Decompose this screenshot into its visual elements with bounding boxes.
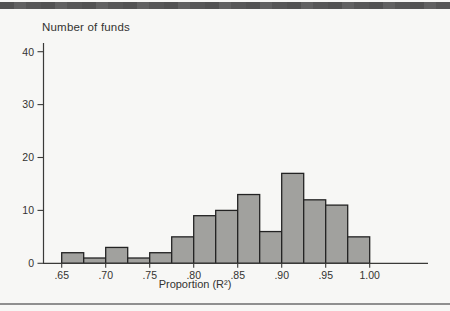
y-tick-label: 10 — [22, 204, 34, 216]
x-tick-label: .85 — [230, 269, 245, 281]
histogram-bars — [62, 173, 370, 263]
histogram-bar — [216, 210, 238, 263]
chart-title: Number of funds — [42, 21, 130, 33]
scanned-page: Number of funds 010203040 .65.70.75.80.8… — [0, 0, 450, 311]
histogram-bar — [326, 205, 348, 263]
x-tick-label: .90 — [274, 269, 289, 281]
histogram-bar — [172, 237, 194, 263]
y-tick-label: 20 — [22, 151, 34, 163]
histogram-bar — [348, 237, 370, 263]
x-tick-label: 1.00 — [359, 269, 380, 281]
histogram-bar — [304, 200, 326, 263]
histogram-bar — [260, 232, 282, 264]
x-tick-label: .75 — [142, 269, 157, 281]
histogram-bar — [84, 258, 106, 263]
x-tick-label: .95 — [318, 269, 333, 281]
x-tick-label: .65 — [54, 269, 69, 281]
x-tick-label: .70 — [98, 269, 113, 281]
histogram-bar — [62, 253, 84, 264]
y-tick-label: 40 — [22, 46, 34, 58]
histogram-bar — [150, 253, 172, 264]
y-axis-ticks: 010203040 — [22, 46, 43, 270]
y-tick-label: 30 — [22, 98, 34, 110]
histogram-chart: Number of funds 010203040 .65.70.75.80.8… — [0, 0, 450, 311]
histogram-bar — [106, 247, 128, 263]
histogram-bar — [128, 258, 150, 263]
histogram-bar — [282, 173, 304, 263]
histogram-bar — [194, 216, 216, 264]
histogram-bar — [238, 195, 260, 264]
x-axis-label: Proportion (R²) — [159, 278, 232, 290]
y-tick-label: 0 — [28, 257, 34, 269]
page-bottom-rule — [0, 303, 450, 305]
